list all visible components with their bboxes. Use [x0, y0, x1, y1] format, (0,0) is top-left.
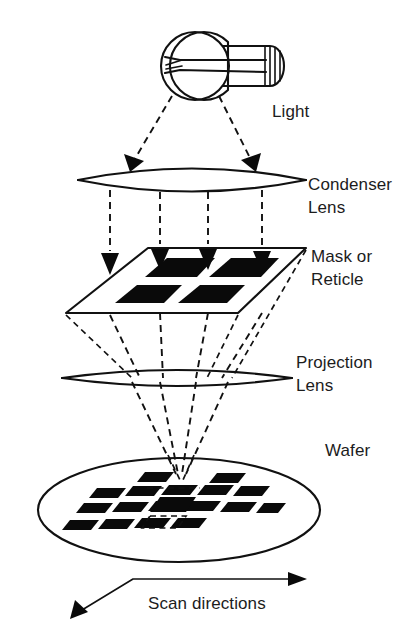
ray-mask-out-2 [160, 313, 163, 378]
bulb-filament-tip-2 [166, 66, 182, 69]
mask-pattern-bottom-right [178, 285, 245, 303]
mask-pattern-bottom-left [115, 285, 182, 303]
ray-focus-3 [182, 382, 196, 474]
mask-plate-outline [66, 248, 306, 313]
wafer-die [89, 488, 126, 498]
label-wafer: Wafer [325, 441, 370, 460]
wafer-die [197, 485, 234, 495]
wafer-die [137, 472, 174, 482]
wafer-die [98, 519, 135, 529]
scan-arrowhead-right [288, 572, 307, 586]
diagram-canvas: Light Condenser Lens Mask or Reticle Pro… [0, 0, 418, 643]
bulb-filament-icon-2 [165, 70, 266, 73]
wafer-die [125, 486, 162, 496]
projection-lens-upper-arc [62, 370, 292, 378]
projection-lens [62, 370, 292, 386]
label-mask-line2: Reticle [311, 270, 364, 289]
illumination-rays [124, 96, 261, 172]
label-condenser-lens-line1: Condenser [308, 175, 392, 194]
bulb-bulb-circle-icon [161, 32, 229, 100]
wafer-die [170, 518, 207, 528]
bulb-filament-tip-1 [166, 60, 182, 65]
label-projection-lens-line2: Lens [296, 376, 333, 395]
wafer-die [76, 503, 113, 513]
label-light: Light [272, 102, 310, 121]
mask-pattern-top-left [145, 258, 215, 277]
wafer-die [134, 518, 171, 528]
wafer-die [256, 503, 286, 513]
ray-edge-left [66, 315, 132, 378]
label-mask-line1: Mask or [311, 247, 372, 266]
condenser-lens-upper-arc [78, 169, 306, 181]
wafer-die [62, 520, 99, 530]
scan-arrowhead-downleft [70, 600, 88, 619]
light-source-bulb [161, 32, 284, 100]
mask-reticle-plane [66, 248, 306, 313]
label-condenser-lens-line2: Lens [308, 198, 345, 217]
lens-to-wafer-rays [132, 382, 228, 480]
wafer-die [161, 485, 198, 495]
condenser-lens-lower-arc [78, 180, 306, 192]
wafer-die [233, 486, 270, 496]
ray-lamp-right [219, 96, 252, 162]
arrowhead-lamp-right [241, 153, 261, 172]
wafer-die [220, 502, 257, 512]
wafer-die [112, 502, 149, 512]
ray-edge-right [207, 315, 238, 378]
condenser-lens [78, 169, 306, 192]
wafer [38, 458, 320, 562]
ray-lamp-left [133, 96, 172, 162]
wafer-die [209, 473, 246, 483]
arrowhead-mask-1 [101, 253, 119, 275]
ray-mask-out-3 [196, 313, 208, 378]
bulb-filament-icon [165, 57, 266, 60]
arrowhead-lamp-left [124, 154, 144, 172]
lithography-diagram: Light Condenser Lens Mask or Reticle Pro… [0, 0, 418, 643]
label-scan-directions: Scan directions [148, 594, 266, 613]
projection-lens-lower-arc [62, 378, 292, 386]
label-projection-lens-line1: Projection [296, 353, 373, 372]
ray-mask-out-4 [222, 313, 262, 378]
mask-pattern-top-right [209, 258, 279, 277]
ray-mask-out-1 [110, 315, 140, 378]
